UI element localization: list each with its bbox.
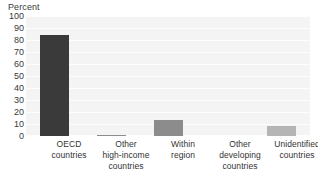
bar-oecd-countries	[40, 35, 69, 136]
bar-chart: Percent 100 90 80 70 60 50 40 30 20 10 0	[0, 0, 318, 184]
x-label-unidentified-countries: Unidentified countries	[254, 139, 318, 161]
x-axis-labels: OECD countries Other high-income countri…	[26, 139, 310, 184]
bar-unidentified-countries	[267, 126, 296, 136]
y-tick-100: 100	[0, 12, 24, 21]
bar-other-high-income-countries	[97, 135, 126, 136]
y-tick-70: 70	[0, 48, 24, 57]
y-tick-20: 20	[0, 108, 24, 117]
x-label-line: Unidentified	[254, 139, 318, 150]
x-label-line: countries	[197, 161, 283, 172]
y-tick-40: 40	[0, 84, 24, 93]
x-label-line: countries	[83, 161, 169, 172]
y-axis-ticks: 100 90 80 70 60 50 40 30 20 10 0	[0, 16, 24, 136]
y-tick-60: 60	[0, 60, 24, 69]
y-tick-10: 10	[0, 120, 24, 129]
y-tick-0: 0	[0, 132, 24, 141]
bars-layer	[26, 16, 310, 136]
bar-within-region	[154, 120, 183, 136]
y-tick-30: 30	[0, 96, 24, 105]
x-label-line: countries	[254, 150, 318, 161]
y-tick-80: 80	[0, 36, 24, 45]
y-tick-90: 90	[0, 24, 24, 33]
y-tick-50: 50	[0, 72, 24, 81]
